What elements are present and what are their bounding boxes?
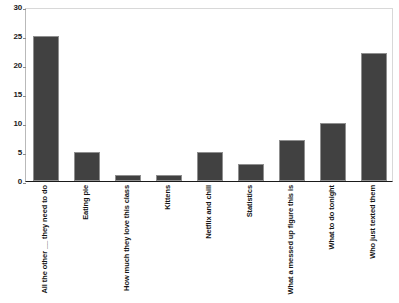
y-axis-tick-mark	[23, 38, 26, 39]
bar-slot	[190, 9, 231, 181]
x-axis-label-slot: How much they love this class	[107, 183, 148, 303]
bar	[238, 164, 264, 181]
y-axis: 051015202530	[0, 0, 22, 303]
x-axis-label-slot: Eating pie	[66, 183, 107, 303]
bar-slot	[67, 9, 108, 181]
x-axis-tick-label: What a messed up figure this is	[287, 185, 295, 294]
y-axis-tick-label: 0	[2, 178, 22, 186]
x-axis-tick-label: Netflix and chill	[205, 185, 213, 239]
bar	[74, 152, 100, 181]
bar-slot	[312, 9, 353, 181]
bar-slot	[26, 9, 67, 181]
x-axis-tick-label: How much they love this class	[123, 185, 131, 291]
bar-slot	[108, 9, 149, 181]
y-axis-tick-label: 10	[2, 120, 22, 128]
x-axis-tick-label: Eating pie	[82, 185, 90, 220]
x-axis-label-slot: What to do tonight	[311, 183, 352, 303]
x-axis-tick-label: Kittens	[164, 185, 172, 210]
x-axis-label-slot: Kittens	[148, 183, 189, 303]
bar	[115, 175, 141, 181]
bars-layer	[26, 9, 392, 181]
x-axis-label-slot: All the other __ they need to do	[25, 183, 66, 303]
y-axis-tick-mark	[23, 67, 26, 68]
bar-chart: 051015202530 All the other __ they need …	[0, 0, 399, 303]
x-axis-tick-label: Statistics	[246, 185, 254, 217]
bar-slot	[149, 9, 190, 181]
bar	[197, 152, 223, 181]
y-axis-tick-label: 5	[2, 149, 22, 157]
y-axis-tick-mark	[23, 96, 26, 97]
bar	[33, 36, 59, 181]
y-axis-tick-label: 15	[2, 91, 22, 99]
x-axis: All the other __ they need to doEating p…	[25, 183, 393, 303]
x-axis-tick-label: Who just texted them	[369, 185, 377, 259]
bar-slot	[353, 9, 394, 181]
y-axis-tick-mark	[23, 9, 26, 10]
plot-area	[25, 8, 393, 182]
bar	[156, 175, 182, 181]
bar-slot	[230, 9, 271, 181]
bar	[320, 123, 346, 181]
y-axis-tick-label: 25	[2, 33, 22, 41]
x-axis-tick-label: All the other __ they need to do	[41, 185, 49, 293]
x-axis-label-slot: Statistics	[229, 183, 270, 303]
y-axis-tick-label: 30	[2, 4, 22, 12]
y-axis-tick-mark	[23, 154, 26, 155]
x-axis-label-slot: What a messed up figure this is	[270, 183, 311, 303]
x-axis-label-slot: Who just texted them	[352, 183, 393, 303]
x-axis-tick-label: What to do tonight	[328, 185, 336, 249]
x-axis-label-slot: Netflix and chill	[189, 183, 230, 303]
y-axis-tick-mark	[23, 125, 26, 126]
bar-slot	[271, 9, 312, 181]
y-axis-tick-label: 20	[2, 62, 22, 70]
bar	[361, 53, 387, 181]
bar	[279, 140, 305, 181]
